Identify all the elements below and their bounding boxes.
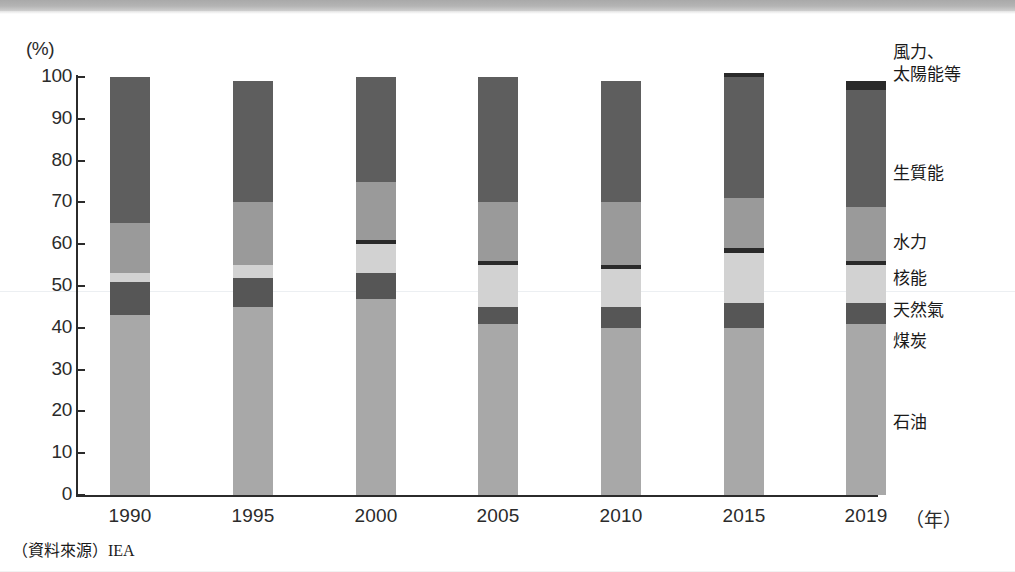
y-tick-label-40: 40 — [16, 317, 72, 336]
bar-segment-2015-natural_gas — [724, 253, 764, 303]
y-tick-60 — [78, 243, 85, 245]
legend-item-natural_gas: 天然氣 — [893, 300, 944, 322]
bar-segment-2019-oil — [846, 324, 886, 495]
y-tick-90 — [78, 118, 85, 120]
y-tick-label-30: 30 — [16, 359, 72, 378]
y-tick-0 — [78, 494, 85, 496]
bar-segment-2015-coal — [724, 303, 764, 328]
legend-item-coal: 煤炭 — [893, 331, 927, 353]
bar-segment-2000-hydro — [356, 182, 396, 241]
bar-segment-2000-natural_gas — [356, 244, 396, 273]
y-tick-label-0: 0 — [16, 484, 72, 503]
legend-label-coal: 煤炭 — [893, 331, 927, 353]
bar-2015 — [724, 73, 764, 495]
legend-label-wind_solar-line2: 太陽能等 — [893, 64, 961, 86]
bar-segment-2019-wind_solar — [846, 81, 886, 89]
y-tick-100 — [78, 76, 85, 78]
y-axis-unit-label: (%) — [26, 38, 54, 60]
x-tick-label-2010: 2010 — [566, 505, 676, 527]
bar-2000 — [356, 77, 396, 495]
y-tick-40 — [78, 327, 85, 329]
y-tick-label-80: 80 — [16, 150, 72, 169]
bar-segment-2000-biomass — [356, 77, 396, 182]
bar-segment-1990-biomass — [110, 77, 150, 223]
bar-segment-2019-biomass — [846, 90, 886, 207]
y-tick-10 — [78, 452, 85, 454]
bar-1990 — [110, 77, 150, 495]
bar-segment-1990-oil — [110, 315, 150, 495]
bar-segment-2000-oil — [356, 299, 396, 495]
bar-segment-2019-natural_gas — [846, 265, 886, 303]
x-tick-label-2015: 2015 — [689, 505, 799, 527]
bar-segment-2000-coal — [356, 273, 396, 298]
bar-segment-1995-hydro — [233, 202, 273, 265]
bar-segment-1995-natural_gas — [233, 265, 273, 278]
bar-segment-2019-coal — [846, 303, 886, 324]
legend-item-nuclear: 核能 — [893, 268, 927, 290]
y-tick-label-20: 20 — [16, 400, 72, 419]
legend-label-hydro: 水力 — [893, 232, 927, 254]
y-tick-label-70: 70 — [16, 191, 72, 210]
legend-item-oil: 石油 — [893, 412, 927, 434]
y-tick-label-60: 60 — [16, 233, 72, 252]
y-tick-30 — [78, 369, 85, 371]
bar-segment-2015-oil — [724, 328, 764, 495]
legend-label-nuclear: 核能 — [893, 268, 927, 290]
legend-label-oil: 石油 — [893, 412, 927, 434]
stacked-bar-chart: (%) 0102030405060708090100 1990199520002… — [0, 0, 1015, 572]
y-tick-label-90: 90 — [16, 108, 72, 127]
bar-2005 — [478, 77, 518, 495]
bar-segment-2010-coal — [601, 307, 641, 328]
bar-2019 — [846, 81, 886, 495]
y-tick-50 — [78, 285, 85, 287]
bar-segment-1995-coal — [233, 278, 273, 307]
y-tick-label-10: 10 — [16, 442, 72, 461]
x-tick-label-1990: 1990 — [75, 505, 185, 527]
y-tick-20 — [78, 410, 85, 412]
bar-segment-1990-hydro — [110, 223, 150, 273]
bar-segment-2010-biomass — [601, 81, 641, 202]
bar-segment-2015-biomass — [724, 77, 764, 198]
legend-label-wind_solar: 風力、 — [893, 42, 961, 64]
bar-segment-2015-hydro — [724, 198, 764, 248]
bar-segment-1995-biomass — [233, 81, 273, 202]
y-tick-80 — [78, 160, 85, 162]
legend-label-biomass: 生質能 — [893, 163, 944, 185]
x-tick-label-2000: 2000 — [321, 505, 431, 527]
x-axis-line — [76, 495, 878, 497]
bar-2010 — [601, 81, 641, 495]
legend-item-wind_solar: 風力、太陽能等 — [893, 42, 961, 86]
bar-segment-2005-hydro — [478, 202, 518, 261]
x-tick-label-1995: 1995 — [198, 505, 308, 527]
bar-segment-2005-biomass — [478, 77, 518, 202]
bar-segment-1995-oil — [233, 307, 273, 495]
bar-segment-1990-coal — [110, 282, 150, 315]
bar-1995 — [233, 81, 273, 495]
bar-segment-2010-oil — [601, 328, 641, 495]
y-tick-label-100: 100 — [16, 66, 72, 85]
bar-segment-2005-natural_gas — [478, 265, 518, 307]
source-note: （資料來源）IEA — [12, 537, 135, 561]
source-name: IEA — [108, 542, 135, 559]
source-label: （資料來源） — [12, 542, 108, 559]
bar-segment-2005-coal — [478, 307, 518, 324]
bar-segment-2019-hydro — [846, 207, 886, 261]
bar-segment-1990-natural_gas — [110, 273, 150, 281]
x-axis-unit-label: （年） — [905, 505, 962, 532]
bar-segment-2005-oil — [478, 324, 518, 495]
x-tick-label-2005: 2005 — [443, 505, 553, 527]
bar-segment-2010-natural_gas — [601, 269, 641, 307]
y-tick-label-50: 50 — [16, 275, 72, 294]
bar-segment-2010-hydro — [601, 202, 641, 265]
y-tick-70 — [78, 201, 85, 203]
legend-label-natural_gas: 天然氣 — [893, 300, 944, 322]
legend-item-biomass: 生質能 — [893, 163, 944, 185]
legend-item-hydro: 水力 — [893, 232, 927, 254]
